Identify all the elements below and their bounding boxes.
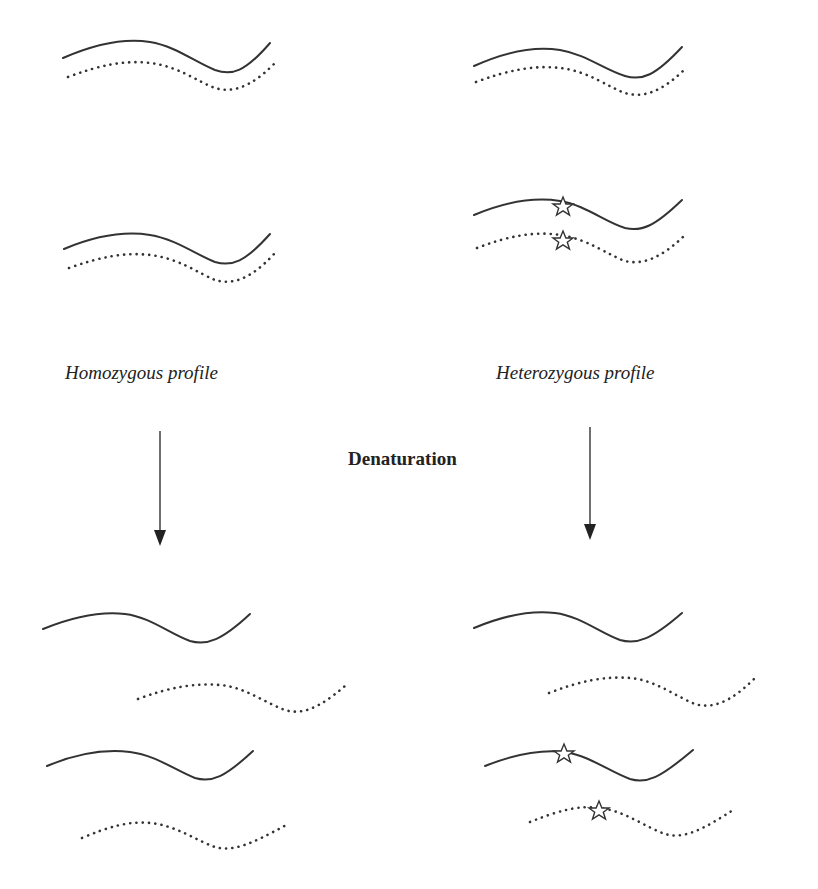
mutation-star-icon (589, 801, 609, 819)
heterozygous-duplex-1 (474, 47, 684, 95)
mutation-star-icon (554, 744, 574, 762)
arrow-down-icon (154, 431, 166, 546)
heterozygous-duplex-2 (474, 197, 684, 262)
heterozygous-profile-label: Heterozygous profile (496, 362, 655, 384)
denaturation-label: Denaturation (348, 448, 457, 470)
homozygous-duplex-2 (64, 234, 274, 282)
heterozygous-single-strands (474, 612, 755, 835)
homozygous-single-strands (43, 613, 345, 848)
arrow-down-icon (584, 427, 596, 540)
homozygous-profile-label: Homozygous profile (65, 362, 218, 384)
denaturation-diagram: Homozygous profile Heterozygous profile … (0, 0, 818, 889)
homozygous-duplex-1 (63, 41, 274, 90)
